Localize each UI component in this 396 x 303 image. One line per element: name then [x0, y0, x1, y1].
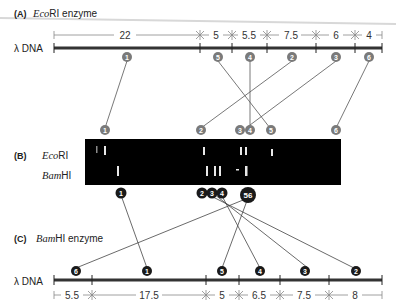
- marker-c-6: 6: [74, 268, 78, 275]
- segment-a-5: 6: [333, 30, 339, 41]
- panel-a-title: EcoRI enzyme: [32, 8, 98, 19]
- segment-c-6: 8: [352, 290, 358, 301]
- gel-image: [85, 139, 341, 185]
- segment-a-3: 5.5: [242, 30, 256, 41]
- marker-a-top-6: 6: [367, 54, 371, 61]
- marker-c-5: 5: [220, 268, 224, 275]
- panel-b: (B) EcoRI BamHI: [14, 139, 341, 185]
- marker-a-top-2: 2: [290, 54, 294, 61]
- panel-a-enzyme-italic: Eco: [32, 8, 49, 19]
- marker-c-3: 3: [303, 268, 307, 275]
- segment-c-3: 5: [219, 290, 225, 301]
- segment-a-1: 22: [119, 30, 131, 41]
- panel-c-dna-strand: [54, 275, 382, 285]
- panel-c: 1 2 3 4 56 (C) BamHI enzyme 6 1 5 4 3 2 …: [14, 187, 382, 301]
- lane-ecori-roman: RI: [58, 150, 68, 161]
- marker-a-gel-5: 5: [269, 127, 273, 134]
- panel-a-fragment-markers: 1 5 4 2 3 6: [122, 52, 374, 62]
- panel-c-connectors: [76, 194, 354, 268]
- panel-b-gel-markers: 1 2 3 4 56: [116, 187, 257, 203]
- panel-c-fragment-markers: 6 1 5 4 3 2: [71, 266, 361, 276]
- marker-a-top-5: 5: [216, 54, 220, 61]
- lane-label-ecori: EcoRI: [41, 150, 68, 161]
- panel-b-label: (B): [14, 151, 27, 161]
- lane-bamhi-roman: HI: [61, 170, 71, 181]
- lane-label-bamhi: BamHI: [42, 170, 71, 181]
- panel-a-dna-label: λ DNA: [14, 43, 43, 54]
- segment-c-2: 17.5: [139, 290, 159, 301]
- panel-c-dna-label: λ DNA: [14, 276, 43, 287]
- segment-a-4: 7.5: [284, 30, 298, 41]
- segment-c-5: 7.5: [297, 290, 311, 301]
- panel-a-enzyme-roman: RI enzyme: [49, 8, 97, 19]
- segment-c-4: 6.5: [252, 290, 266, 301]
- segment-a-2: 5: [213, 30, 219, 41]
- panel-c-title: BamHI enzyme: [36, 233, 103, 244]
- marker-a-gel-3: 3: [238, 127, 242, 134]
- marker-b-gel-3: 3: [210, 190, 214, 197]
- panel-a-dna-strand: [54, 43, 382, 53]
- marker-a-top-3: 3: [334, 54, 338, 61]
- marker-a-gel-2: 2: [199, 127, 203, 134]
- panel-c-label: (C): [14, 234, 27, 244]
- marker-a-top-1: 1: [125, 54, 129, 61]
- marker-b-gel-56: 56: [244, 191, 253, 200]
- panel-a-label: (A): [14, 9, 27, 19]
- marker-a-gel-1: 1: [103, 127, 107, 134]
- marker-a-gel-4: 4: [248, 127, 252, 134]
- restriction-map-diagram: (A) EcoRI enzyme 22 5 5.5 7.5: [0, 0, 396, 303]
- panel-a: (A) EcoRI enzyme 22 5 5.5 7.5: [14, 8, 382, 135]
- segment-c-1: 5.5: [65, 290, 79, 301]
- marker-b-gel-1: 1: [119, 190, 123, 197]
- marker-b-gel-4: 4: [220, 190, 224, 197]
- marker-c-2: 2: [354, 268, 358, 275]
- segment-a-6: 4: [366, 30, 372, 41]
- panel-c-enzyme-roman: HI enzyme: [55, 233, 103, 244]
- marker-a-top-4: 4: [248, 54, 252, 61]
- marker-c-1: 1: [145, 268, 149, 275]
- panel-a-dimension-line: 22 5 5.5 7.5 6 4: [54, 29, 382, 41]
- panel-c-enzyme-italic: Bam: [36, 233, 56, 244]
- panel-c-dimension-line: 5.5 17.5 5 6.5 7.5 8: [54, 289, 382, 301]
- marker-b-gel-2: 2: [200, 190, 204, 197]
- lane-bamhi-italic: Bam: [42, 170, 62, 181]
- marker-c-4: 4: [258, 268, 262, 275]
- panel-a-gel-markers: 1 2 3 4 5 6: [100, 125, 341, 135]
- lane-ecori-italic: Eco: [41, 150, 58, 161]
- panel-a-connectors: [105, 61, 369, 128]
- marker-a-gel-6: 6: [334, 127, 338, 134]
